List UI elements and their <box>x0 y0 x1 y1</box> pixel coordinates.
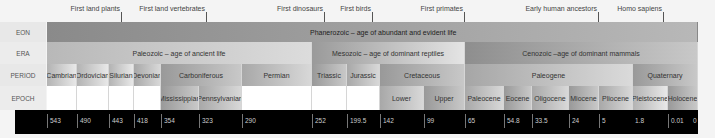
era-cenozoic: Cenozoic –age of dominant mammals <box>465 42 698 64</box>
epoch-empty <box>312 86 347 110</box>
epoch-empty <box>109 86 134 110</box>
period-label: Quaternary <box>647 72 682 79</box>
tick-543: 543 <box>47 114 61 128</box>
epoch-upper: Upper <box>424 86 465 110</box>
tick-99: 99 <box>424 114 434 128</box>
era-label: Cenozoic –age of dominant mammals <box>522 50 640 57</box>
tick-33-5: 33.5 <box>532 114 548 128</box>
epoch-mississippian: Mississippian <box>161 86 199 110</box>
milestone-first-primates: First primates <box>410 5 465 22</box>
epoch-label: Oligocene <box>534 95 566 102</box>
epoch-empty <box>47 86 77 110</box>
period-jurassic: Jurassic <box>347 64 380 86</box>
epoch-miocene: Miocene <box>569 86 599 110</box>
milestone-label: First primates <box>421 5 463 12</box>
epoch-label: Pleistocene <box>633 95 668 102</box>
era-mesozoic: Mesozoic – age of dominant reptiles <box>312 42 465 64</box>
epoch-label: Mississippian <box>161 95 199 102</box>
epoch-label: Pliocene <box>602 95 629 102</box>
row-label-eon: EON <box>0 22 46 42</box>
epoch-empty <box>347 86 380 110</box>
epoch-empty <box>77 86 109 110</box>
period-quaternary: Quaternary <box>633 64 698 86</box>
period-label: Cambrian <box>47 72 77 79</box>
period-devonian: Devonian <box>134 64 161 86</box>
row-label-era: ERA <box>0 42 46 64</box>
tick-65: 65 <box>465 114 475 128</box>
period-carboniferous: Carboniferous <box>161 64 242 86</box>
tick-0: 0 <box>691 114 697 128</box>
milestone-label: First land vertebrates <box>139 5 205 12</box>
tick-0-01: 0.01 <box>668 114 684 128</box>
milestone-label: Early human ancestors <box>525 5 597 12</box>
tick-24: 24 <box>569 114 579 128</box>
period-label: Devonian <box>134 72 161 79</box>
period-ordovician: Ordovician <box>77 64 109 86</box>
milestone-early-human-ancestors: Early human ancestors <box>515 5 599 22</box>
row-label-epoch: EPOCH <box>0 86 46 110</box>
row-label-period: PERIOD <box>0 64 46 86</box>
era-label: Paleozoic – age of ancient life <box>132 50 225 57</box>
epoch-label: Upper <box>434 95 453 102</box>
milestone-first-birds: First birds <box>333 5 373 22</box>
epoch-paleocene: Paleocene <box>465 86 504 110</box>
period-permian: Permian <box>242 64 312 86</box>
tick-354: 354 <box>161 114 175 128</box>
period-label: Permian <box>263 72 289 79</box>
period-label: Ordovician <box>77 72 109 79</box>
milestone-label: First dinosaurs <box>277 5 323 12</box>
epoch-eocene: Eocene <box>504 86 532 110</box>
period-label: Cretaceous <box>404 72 440 79</box>
milestone-label: Homo sapiens <box>617 5 662 12</box>
epoch-label: Eocene <box>506 95 530 102</box>
tick-1-8: 1.8 <box>633 114 644 128</box>
epoch-label: Miocene <box>570 95 596 102</box>
eon-phanerozoic: Phanerozoic – age of abundant and eviden… <box>47 22 698 42</box>
milestone-label: First land plants <box>71 5 120 12</box>
period-label: Paleogene <box>532 72 565 79</box>
tick-418: 418 <box>134 114 148 128</box>
milestone-first-land-plants: First land plants <box>60 5 122 22</box>
epoch-oligocene: Oligocene <box>532 86 569 110</box>
epoch-label: Paleocene <box>467 95 500 102</box>
period-label: Silurian <box>109 72 132 79</box>
milestone-label: First birds <box>340 5 371 12</box>
period-silurian: Silurian <box>109 64 134 86</box>
tick-54-8: 54.8 <box>504 114 520 128</box>
era-label: Mesozoic – age of dominant reptiles <box>332 50 444 57</box>
tick-490: 490 <box>77 114 91 128</box>
period-label: Carboniferous <box>179 72 223 79</box>
epoch-label: Holocene <box>668 95 697 102</box>
period-cretaceous: Cretaceous <box>380 64 465 86</box>
period-triassic: Triassic <box>312 64 347 86</box>
eon-label: Phanerozoic – age of abundant and eviden… <box>310 29 456 36</box>
milestone-first-dinosaurs: First dinosaurs <box>270 5 325 22</box>
epoch-pennsylvanian: Pennsylvanian <box>199 86 242 110</box>
tick-443: 443 <box>109 114 123 128</box>
tick-290: 290 <box>242 114 256 128</box>
epoch-pleistocene: Pleistocene <box>633 86 668 110</box>
period-cambrian: Cambrian <box>47 64 77 86</box>
epoch-label: Pennsylvanian <box>199 95 242 102</box>
epoch-pliocene: Pliocene <box>599 86 633 110</box>
tick-252: 252 <box>312 114 326 128</box>
period-label: Triassic <box>317 72 341 79</box>
epoch-holocene: Holocene <box>668 86 698 110</box>
epoch-empty <box>134 86 161 110</box>
tick-142: 142 <box>380 114 394 128</box>
tick-5: 5 <box>599 114 606 128</box>
period-label: Jurassic <box>350 72 376 79</box>
epoch-empty <box>242 86 312 110</box>
tick-323: 323 <box>199 114 213 128</box>
milestone-first-land-vertebrates: First land vertebrates <box>125 5 207 22</box>
epoch-lower: Lower <box>380 86 424 110</box>
milestone-homo-sapiens: Homo sapiens <box>610 5 664 22</box>
epoch-label: Lower <box>392 95 411 102</box>
era-paleozoic: Paleozoic – age of ancient life <box>47 42 312 64</box>
time-scale-bar: 543 490 443 418 354 323 290 252 199.5 14… <box>15 110 698 134</box>
period-paleogene: Paleogene <box>465 64 633 86</box>
tick-199-5: 199.5 <box>347 114 366 128</box>
